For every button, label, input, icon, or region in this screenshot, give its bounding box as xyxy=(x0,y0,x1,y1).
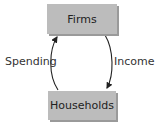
firms-node: Firms xyxy=(47,4,117,34)
income-label: Income xyxy=(114,55,154,68)
households-label: Households xyxy=(50,99,114,112)
income-arrow xyxy=(105,35,112,88)
spending-label: Spending xyxy=(5,55,57,68)
households-node: Households xyxy=(48,91,116,120)
firms-label: Firms xyxy=(67,13,96,26)
